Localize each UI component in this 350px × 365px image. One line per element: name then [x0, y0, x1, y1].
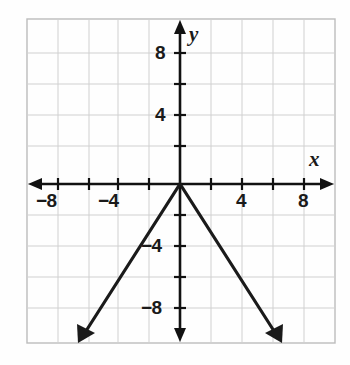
x-tick-label-neg4: −4 — [98, 190, 119, 212]
y-tick-label-neg4: −4 — [141, 235, 162, 257]
x-axis-label: x — [309, 147, 320, 172]
x-tick-label-pos4: 4 — [236, 190, 246, 212]
y-tick-label-neg8: −8 — [141, 297, 162, 319]
coordinate-plane-svg — [0, 0, 350, 365]
y-tick-label-pos4: 4 — [155, 104, 165, 126]
x-tick-label-neg8: −8 — [36, 190, 57, 212]
graph-figure: −8 −4 4 8 8 4 −4 −8 x y — [0, 0, 350, 365]
y-axis-label: y — [189, 22, 198, 47]
y-tick-label-pos8: 8 — [155, 42, 165, 64]
x-tick-label-pos8: 8 — [298, 190, 308, 212]
